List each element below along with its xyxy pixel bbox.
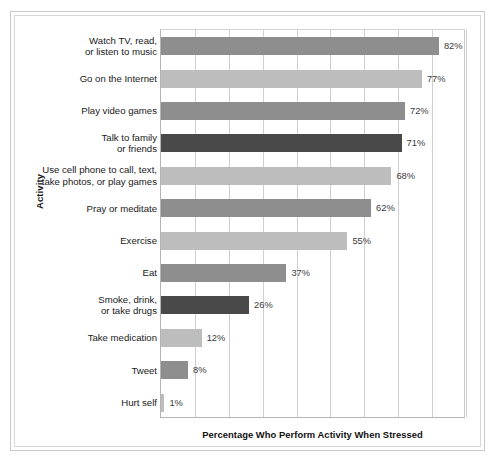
bar-row: Play video games72% (0, 95, 497, 127)
bar-row: Take medication12% (0, 322, 497, 354)
bar-row: Eat37% (0, 257, 497, 289)
bar-value-label: 55% (352, 232, 371, 250)
category-label-line: Go on the Internet (5, 73, 157, 84)
category-label-line: Exercise (5, 235, 157, 246)
bar-value-label: 8% (193, 361, 206, 379)
category-label: Use cell phone to call, text,take photos… (5, 164, 157, 187)
bar[interactable] (161, 296, 249, 314)
category-label-line: or listen to music (5, 46, 157, 57)
bar[interactable] (161, 329, 202, 347)
bar[interactable] (161, 199, 371, 217)
category-label-line: Talk to family (5, 132, 157, 143)
bar-value-label: 1% (169, 394, 182, 412)
bar-row: Use cell phone to call, text,take photos… (0, 160, 497, 192)
category-label: Talk to familyor friends (5, 132, 157, 155)
category-label-line: or friends (5, 143, 157, 154)
category-label-line: Hurt self (5, 397, 157, 408)
category-label: Tweet (5, 365, 157, 376)
bar-row: Smoke, drink,or take drugs26% (0, 289, 497, 321)
bar[interactable] (161, 361, 188, 379)
category-label: Eat (5, 267, 157, 278)
category-label: Play video games (5, 105, 157, 116)
category-label: Watch TV, read,or listen to music (5, 35, 157, 58)
category-label-line: or take drugs (5, 305, 157, 316)
bar-row: Watch TV, read,or listen to music82% (0, 30, 497, 62)
bar[interactable] (161, 134, 402, 152)
bar[interactable] (161, 102, 405, 120)
bar-value-label: 82% (444, 37, 463, 55)
category-label-line: Smoke, drink, (5, 294, 157, 305)
bar-row: Tweet8% (0, 354, 497, 386)
bar[interactable] (161, 394, 164, 412)
bar-value-label: 12% (207, 329, 226, 347)
category-label-line: Take medication (5, 332, 157, 343)
category-label: Smoke, drink,or take drugs (5, 294, 157, 317)
category-label: Take medication (5, 332, 157, 343)
bar[interactable] (161, 70, 422, 88)
category-label-line: Use cell phone to call, text, (5, 164, 157, 175)
category-label: Go on the Internet (5, 73, 157, 84)
bar[interactable] (161, 264, 286, 282)
bar-row: Hurt self1% (0, 386, 497, 418)
bar-value-label: 71% (407, 134, 426, 152)
bar[interactable] (161, 37, 439, 55)
bar-value-label: 26% (254, 296, 273, 314)
category-label-line: Tweet (5, 365, 157, 376)
bar[interactable] (161, 232, 347, 250)
category-label-line: Eat (5, 267, 157, 278)
bar-value-label: 62% (376, 199, 395, 217)
bar-value-label: 72% (410, 102, 429, 120)
bar-value-label: 37% (291, 264, 310, 282)
horizontal-bar-chart: Activity Watch TV, read,or listen to mus… (0, 0, 497, 472)
category-label: Exercise (5, 235, 157, 246)
bar-value-label: 68% (396, 167, 415, 185)
bar-row: Exercise55% (0, 224, 497, 256)
category-label: Hurt self (5, 397, 157, 408)
bar-row: Pray or meditate62% (0, 192, 497, 224)
category-label-line: Pray or meditate (5, 203, 157, 214)
category-label-line: Play video games (5, 105, 157, 116)
category-label-line: take photos, or play games (5, 176, 157, 187)
bar[interactable] (161, 167, 391, 185)
bar-row: Go on the Internet77% (0, 62, 497, 94)
category-label: Pray or meditate (5, 203, 157, 214)
bar-value-label: 77% (427, 70, 446, 88)
x-axis-title: Percentage Who Perform Activity When Str… (160, 429, 465, 440)
category-label-line: Watch TV, read, (5, 35, 157, 46)
bar-row: Talk to familyor friends71% (0, 127, 497, 159)
